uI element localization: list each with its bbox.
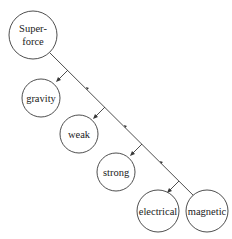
- node-label: magnetic: [188, 206, 227, 217]
- node-label: electrical: [139, 206, 178, 217]
- node-label-line-2: force: [22, 36, 44, 47]
- node-gravity: gravity: [22, 79, 60, 117]
- force-unification-diagram: Super- force gravity weak strong electri…: [0, 0, 232, 239]
- node-electrical: electrical: [137, 190, 179, 232]
- node-magnetic: magnetic: [186, 190, 228, 232]
- node-label-line-1: Super-: [19, 23, 47, 34]
- node-circle: [9, 11, 57, 59]
- node-weak: weak: [60, 115, 98, 153]
- node-label: gravity: [26, 93, 56, 104]
- node-label: weak: [68, 129, 91, 140]
- node-strong: strong: [97, 153, 135, 191]
- node-label: strong: [103, 167, 130, 178]
- node-superforce: Super- force: [9, 11, 57, 59]
